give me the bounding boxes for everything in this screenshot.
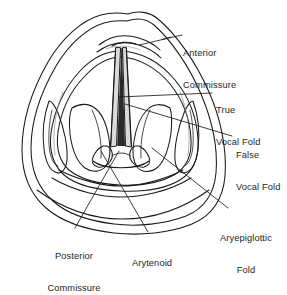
label-aryepiglottic-fold-line1: Aryepiglottic [208,233,284,244]
label-posterior-commissure-line1: Posterior [20,251,128,262]
interarytenoid-notch [112,153,131,156]
label-arytenoid: Arytenoid [118,237,186,290]
false-vocal-fold-right [133,105,172,172]
leader-arytenoid [101,151,148,232]
piriform-sinus-left [43,101,67,173]
label-false-vocal-fold-line2: Vocal Fold [236,182,280,193]
label-aryepiglottic-fold-line2: Fold [208,265,284,276]
postcricoid-wall-upper [59,170,183,186]
label-arytenoid-line1: Arytenoid [118,258,186,269]
false-vocal-fold-left [69,104,110,171]
label-anterior-commissure-line1: Anterior [183,48,236,59]
label-false-vocal-fold: False Vocal Fold [236,129,280,214]
label-aryepiglottic-fold: Aryepiglottic Fold [208,212,284,295]
hypopharynx-shelf [37,190,209,219]
label-posterior-commissure-line2: Commissure [20,283,128,294]
epiglottic-petiole-lower [97,43,161,58]
anterior-commissure-notch [112,42,136,46]
label-false-vocal-fold-line1: False [236,150,280,161]
label-posterior-commissure: Posterior Commissure [20,230,128,295]
label-true-vocal-fold-line1: True [216,105,260,116]
